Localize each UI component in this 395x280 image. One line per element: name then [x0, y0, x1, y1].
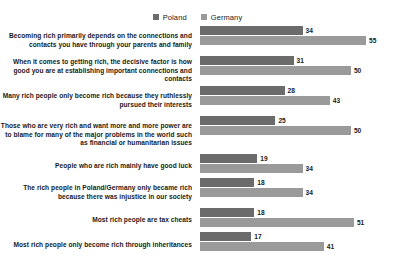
- chart-legend: Poland Germany: [0, 0, 395, 26]
- bar-value-label: 28: [288, 86, 295, 95]
- bar-value-label: 43: [333, 96, 340, 105]
- bar-pair: 3455: [200, 26, 395, 56]
- bar-line-germany: 51: [200, 218, 395, 227]
- bar-value-label: 41: [327, 242, 334, 251]
- bar-value-label: 19: [260, 154, 267, 163]
- bar-germany[interactable]: [200, 126, 351, 135]
- bar-value-label: 55: [369, 36, 376, 45]
- category-label: The rich people in Poland/Germany only b…: [0, 184, 200, 201]
- bar-line-poland: 31: [200, 56, 395, 65]
- bar-pair: 1934: [200, 154, 395, 178]
- square-swatch-icon: [201, 14, 207, 20]
- bar-value-label: 18: [257, 178, 264, 187]
- bar-line-poland: 25: [200, 116, 395, 125]
- bar-value-label: 34: [306, 188, 313, 197]
- category-label: Most rich people are tax cheats: [0, 216, 200, 225]
- legend-item-germany[interactable]: Germany: [201, 13, 243, 22]
- bar-poland[interactable]: [200, 86, 285, 95]
- bar-pair: 3150: [200, 56, 395, 86]
- bar-line-poland: 19: [200, 154, 395, 163]
- category-label: Most rich people only become rich throug…: [0, 241, 200, 250]
- bar-row-group: The rich people in Poland/Germany only b…: [0, 178, 395, 208]
- bar-line-germany: 55: [200, 36, 395, 45]
- bar-row-group: Most rich people only become rich throug…: [0, 232, 395, 258]
- bar-poland[interactable]: [200, 26, 303, 35]
- bar-value-label: 31: [297, 56, 304, 65]
- bar-value-label: 25: [278, 116, 285, 125]
- bar-line-poland: 18: [200, 208, 395, 217]
- category-label: Those who are very rich and want more an…: [0, 122, 200, 148]
- category-label: When it comes to getting rich, the decis…: [0, 58, 200, 84]
- bar-poland[interactable]: [200, 116, 275, 125]
- bar-row-group: People who are rich mainly have good luc…: [0, 154, 395, 178]
- bar-germany[interactable]: [200, 164, 303, 173]
- bar-poland[interactable]: [200, 208, 254, 217]
- bar-germany[interactable]: [200, 96, 330, 105]
- bar-value-label: 51: [357, 218, 364, 227]
- bar-line-germany: 43: [200, 96, 395, 105]
- bar-row-group: Many rich people only become rich becaus…: [0, 86, 395, 116]
- bar-line-poland: 18: [200, 178, 395, 187]
- bar-value-label: 34: [306, 26, 313, 35]
- bar-germany[interactable]: [200, 66, 351, 75]
- bar-germany[interactable]: [200, 218, 354, 227]
- bar-line-germany: 34: [200, 188, 395, 197]
- bar-value-label: 50: [354, 126, 361, 135]
- bar-germany[interactable]: [200, 242, 324, 251]
- square-swatch-icon: [153, 14, 159, 20]
- bar-row-group: When it comes to getting rich, the decis…: [0, 56, 395, 86]
- bar-line-poland: 34: [200, 26, 395, 35]
- bar-pair: 2843: [200, 86, 395, 116]
- bar-line-germany: 41: [200, 242, 395, 251]
- bar-row-group: Those who are very rich and want more an…: [0, 116, 395, 154]
- bar-value-label: 50: [354, 66, 361, 75]
- category-label: People who are rich mainly have good luc…: [0, 162, 200, 171]
- bar-row-group: Becoming rich primarily depends on the c…: [0, 26, 395, 56]
- category-label: Becoming rich primarily depends on the c…: [0, 32, 200, 49]
- bar-poland[interactable]: [200, 232, 251, 241]
- bar-value-label: 18: [257, 208, 264, 217]
- legend-item-poland[interactable]: Poland: [153, 13, 187, 22]
- bar-pair: 1851: [200, 208, 395, 232]
- bar-line-poland: 17: [200, 232, 395, 241]
- bar-pair: 1834: [200, 178, 395, 208]
- bar-line-germany: 50: [200, 126, 395, 135]
- bar-pair: 2550: [200, 116, 395, 154]
- bar-poland[interactable]: [200, 178, 254, 187]
- bar-value-label: 17: [254, 232, 261, 241]
- bar-germany[interactable]: [200, 188, 303, 197]
- bar-poland[interactable]: [200, 56, 294, 65]
- bar-pair: 1741: [200, 232, 395, 258]
- bar-line-germany: 34: [200, 164, 395, 173]
- bar-line-poland: 28: [200, 86, 395, 95]
- category-label: Many rich people only become rich becaus…: [0, 92, 200, 109]
- bar-value-label: 34: [306, 164, 313, 173]
- legend-label-poland: Poland: [163, 13, 187, 22]
- legend-label-germany: Germany: [211, 13, 243, 22]
- bar-germany[interactable]: [200, 36, 366, 45]
- bar-poland[interactable]: [200, 154, 257, 163]
- bar-line-germany: 50: [200, 66, 395, 75]
- bar-chart: Poland Germany Becoming rich primarily d…: [0, 0, 395, 280]
- bar-row-group: Most rich people are tax cheats1851: [0, 208, 395, 232]
- plot-area: Becoming rich primarily depends on the c…: [0, 26, 395, 258]
